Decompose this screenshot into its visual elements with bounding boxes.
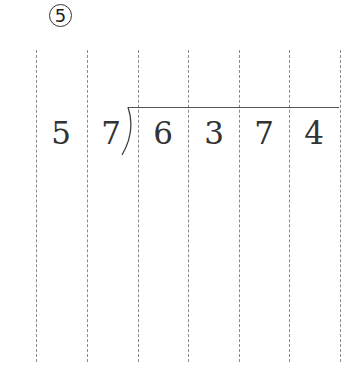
dividend-digit: 4	[294, 113, 334, 153]
dividend-digit: 7	[244, 113, 284, 153]
division-bracket-icon	[120, 107, 134, 155]
divisor-digit: 5	[41, 113, 81, 153]
problem-number-label: 5	[55, 5, 66, 26]
grid-line	[340, 50, 341, 362]
division-bar	[128, 107, 339, 108]
grid-line	[188, 50, 189, 362]
grid-line	[36, 50, 37, 362]
dividend-digit: 6	[143, 113, 183, 153]
grid-line	[87, 50, 88, 362]
grid-line	[239, 50, 240, 362]
dividend-digit: 3	[194, 113, 234, 153]
problem-number: 5	[49, 4, 72, 27]
grid-line	[289, 50, 290, 362]
grid-line	[138, 50, 139, 362]
